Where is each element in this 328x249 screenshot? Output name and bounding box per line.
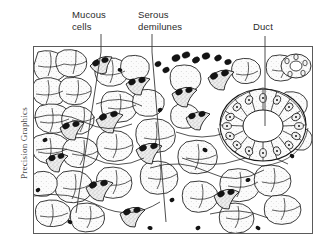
salivary-gland-micrograph: [0, 0, 328, 249]
figure-root: Mucous cells Serous demilunes Duct Preci…: [0, 0, 328, 249]
callout-label-serous-demilunes: Serous demilunes: [138, 9, 182, 32]
tissue-plate: [29, 46, 313, 234]
credit-precision-graphics: Precision Graphics: [19, 73, 29, 213]
satellite-duct: [281, 54, 311, 78]
callout-label-mucous-cells: Mucous cells: [72, 9, 106, 32]
duct-lumen: [243, 110, 283, 142]
callout-label-duct: Duct: [253, 21, 273, 33]
